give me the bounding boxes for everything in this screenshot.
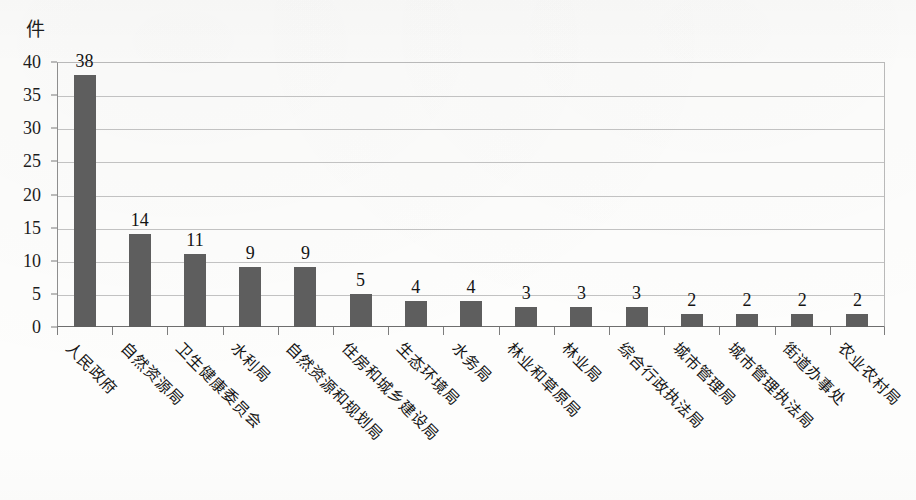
bar	[350, 294, 372, 327]
bar-value-label: 3	[522, 284, 531, 302]
bar-value-label: 5	[356, 271, 365, 289]
bar-value-label: 2	[853, 291, 862, 309]
y-axis-tick-label: 40	[0, 53, 50, 71]
x-axis-category-label: 人民政府	[63, 340, 120, 397]
y-axis-tick-label: 35	[0, 86, 50, 104]
bar-value-label: 14	[131, 211, 149, 229]
x-axis-category-label: 住房和城乡建设局	[339, 340, 442, 443]
bar	[460, 301, 482, 328]
bar	[736, 314, 758, 327]
x-axis-tick-marks	[57, 327, 885, 336]
y-axis-tick-label: 15	[0, 219, 50, 237]
bar-group: 11	[167, 62, 222, 327]
x-axis-tick-mark	[57, 327, 58, 335]
y-axis-tick-label: 30	[0, 119, 50, 137]
y-axis-tick-label: 10	[0, 252, 50, 270]
bar-group: 5	[333, 62, 388, 327]
x-axis-category-label: 自然资源和规划局	[283, 340, 386, 443]
bar-chart-figure: 件 0510152025303540 381411995443332222 人民…	[0, 0, 916, 500]
bar-value-label: 2	[798, 291, 807, 309]
bar	[570, 307, 592, 327]
y-axis-tick-label: 20	[0, 186, 50, 204]
x-axis-tick-mark	[554, 327, 555, 335]
bar	[294, 267, 316, 327]
x-axis-tick-mark	[830, 327, 831, 335]
bar-group: 9	[223, 62, 278, 327]
x-axis-tick-mark	[333, 327, 334, 335]
bar-value-label: 9	[246, 244, 255, 262]
bar-group: 2	[664, 62, 719, 327]
bar-group: 3	[499, 62, 554, 327]
y-axis-tick-label: 5	[0, 285, 50, 303]
y-axis: 0510152025303540	[0, 62, 50, 327]
y-axis-tick-label: 0	[0, 318, 50, 336]
bar-value-label: 2	[687, 291, 696, 309]
bar	[129, 234, 151, 327]
bar	[184, 254, 206, 327]
bar-value-label: 38	[76, 52, 94, 70]
bar	[515, 307, 537, 327]
bar-group: 2	[719, 62, 774, 327]
x-axis-category-label: 水务局	[449, 340, 495, 386]
x-axis-tick-mark	[223, 327, 224, 335]
bar-group: 38	[57, 62, 112, 327]
bar-group: 4	[388, 62, 443, 327]
bar-value-label: 2	[742, 291, 751, 309]
bar	[681, 314, 703, 327]
x-axis-category-label: 林业局	[559, 340, 605, 386]
x-axis-category-label: 水利局	[228, 340, 274, 386]
x-axis-tick-mark	[884, 327, 885, 335]
bar	[405, 301, 427, 328]
bar-value-label: 11	[186, 231, 203, 249]
bar-value-label: 4	[466, 278, 475, 296]
x-axis-tick-mark	[719, 327, 720, 335]
bar-value-label: 9	[301, 244, 310, 262]
bar-value-label: 3	[577, 284, 586, 302]
x-axis-tick-mark	[388, 327, 389, 335]
x-axis-tick-mark	[443, 327, 444, 335]
bar-group: 9	[278, 62, 333, 327]
bar-group: 4	[443, 62, 498, 327]
bar	[846, 314, 868, 327]
bar	[626, 307, 648, 327]
bar-value-label: 3	[632, 284, 641, 302]
x-axis-tick-mark	[664, 327, 665, 335]
bar	[239, 267, 261, 327]
x-axis-tick-mark	[278, 327, 279, 335]
bars-layer: 381411995443332222	[57, 62, 885, 327]
bar-value-label: 4	[411, 278, 420, 296]
x-axis-category-labels: 人民政府自然资源局卫生健康委员会水利局自然资源和规划局住房和城乡建设局生态环境局…	[57, 336, 885, 496]
x-axis-tick-mark	[499, 327, 500, 335]
x-axis-tick-mark	[167, 327, 168, 335]
bar	[74, 75, 96, 327]
bar-group: 2	[830, 62, 885, 327]
bar	[791, 314, 813, 327]
x-axis-tick-mark	[609, 327, 610, 335]
bar-group: 3	[554, 62, 609, 327]
bar-group: 14	[112, 62, 167, 327]
x-axis-tick-mark	[112, 327, 113, 335]
y-axis-unit-label: 件	[26, 20, 46, 39]
bar-group: 2	[775, 62, 830, 327]
x-axis-tick-mark	[775, 327, 776, 335]
y-axis-tick-label: 25	[0, 152, 50, 170]
bar-group: 3	[609, 62, 664, 327]
